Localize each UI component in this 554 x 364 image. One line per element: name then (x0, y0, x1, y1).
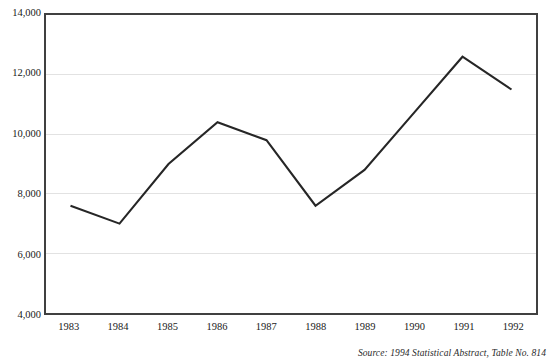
x-axis-tick-label: 1983 (45, 321, 93, 332)
x-axis-tick-label: 1987 (242, 321, 290, 332)
data-series-line (46, 15, 536, 313)
y-axis-tick-label: 14,000 (2, 8, 44, 18)
plot-area (44, 13, 538, 315)
y-axis-tick-label: 6,000 (2, 250, 44, 260)
x-axis-tick-label: 1986 (193, 321, 241, 332)
y-axis-tick-label: 10,000 (2, 129, 44, 139)
x-axis-tick-label: 1985 (144, 321, 192, 332)
source-note: Source: 1994 Statistical Abstract, Table… (358, 348, 546, 358)
y-axis-tick-label: 4,000 (2, 310, 44, 320)
x-axis-tick-label: 1991 (440, 321, 488, 332)
x-axis-tick-label: 1988 (292, 321, 340, 332)
page-title (0, 0, 554, 3)
x-axis-tick-label: 1989 (341, 321, 389, 332)
chart-page: 4,0006,0008,00010,00012,00014,000 198319… (0, 0, 554, 364)
x-axis: 1983198419851986198719881989199019911992 (44, 321, 538, 339)
x-axis-tick-label: 1990 (391, 321, 439, 332)
y-axis: 4,0006,0008,00010,00012,00014,000 (0, 0, 44, 364)
y-axis-tick-label: 8,000 (2, 189, 44, 199)
y-axis-tick-label: 12,000 (2, 68, 44, 78)
x-axis-tick-label: 1984 (94, 321, 142, 332)
x-axis-tick-label: 1992 (489, 321, 537, 332)
